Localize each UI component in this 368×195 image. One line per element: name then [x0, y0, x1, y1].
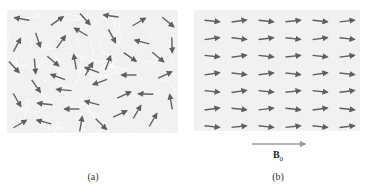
caption-a: (a): [87, 171, 98, 182]
magnetic-domains-figure: [0, 0, 368, 195]
caption-b: (b): [272, 171, 284, 182]
field-label-subscript: 0: [280, 155, 284, 163]
panel-b-background: [194, 10, 360, 131]
panel-a-background: [7, 10, 178, 133]
dipole-arrow-icon: [172, 38, 173, 53]
dipole-arrow-icon: [139, 94, 154, 95]
panel-a: [7, 10, 178, 133]
field-b0-label: B0: [273, 149, 283, 163]
field-label-text: B: [273, 149, 280, 160]
panel-b: [194, 10, 360, 131]
